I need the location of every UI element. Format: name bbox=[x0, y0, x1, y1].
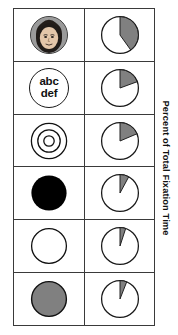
table-row bbox=[14, 220, 154, 273]
y-axis-label: Percent of Total Fixation Time bbox=[155, 0, 178, 335]
stimulus-cell-white-disk bbox=[14, 220, 85, 272]
white-disk-icon bbox=[30, 227, 68, 265]
fixation-time-figure: abc def bbox=[0, 0, 178, 335]
table-row bbox=[14, 9, 154, 62]
pie-chart-6 bbox=[100, 279, 140, 319]
stimulus-cell-concentric bbox=[14, 115, 85, 167]
pie-cell-6 bbox=[85, 273, 154, 325]
pie-chart-1 bbox=[100, 15, 140, 55]
text-circle-icon: abc def bbox=[29, 68, 69, 108]
pie-chart-5 bbox=[100, 226, 140, 266]
table-row: abc def bbox=[14, 62, 154, 115]
stimulus-pie-table: abc def bbox=[13, 8, 155, 326]
table-row bbox=[14, 115, 154, 168]
axis-label-text: Percent of Total Fixation Time bbox=[162, 100, 172, 235]
pie-cell-5 bbox=[85, 220, 154, 272]
table-row bbox=[14, 273, 154, 325]
pie-chart-2 bbox=[100, 68, 140, 108]
face-photo-icon bbox=[30, 16, 68, 54]
text-line-1: abc bbox=[39, 76, 58, 88]
stimulus-cell-black-disk bbox=[14, 167, 85, 219]
pie-cell-1 bbox=[85, 9, 154, 61]
pie-cell-4 bbox=[85, 167, 154, 219]
stimulus-cell-face bbox=[14, 9, 85, 61]
stimulus-cell-gray-disk bbox=[14, 273, 85, 325]
pie-chart-3 bbox=[100, 121, 140, 161]
black-disk-icon bbox=[30, 174, 68, 212]
stimulus-cell-text: abc def bbox=[14, 62, 85, 114]
pie-cell-2 bbox=[85, 62, 154, 114]
gray-disk-icon bbox=[30, 280, 68, 318]
concentric-circles-icon bbox=[30, 122, 68, 160]
pie-chart-4 bbox=[100, 173, 140, 213]
table-row bbox=[14, 167, 154, 220]
pie-cell-3 bbox=[85, 115, 154, 167]
text-line-2: def bbox=[41, 88, 58, 100]
